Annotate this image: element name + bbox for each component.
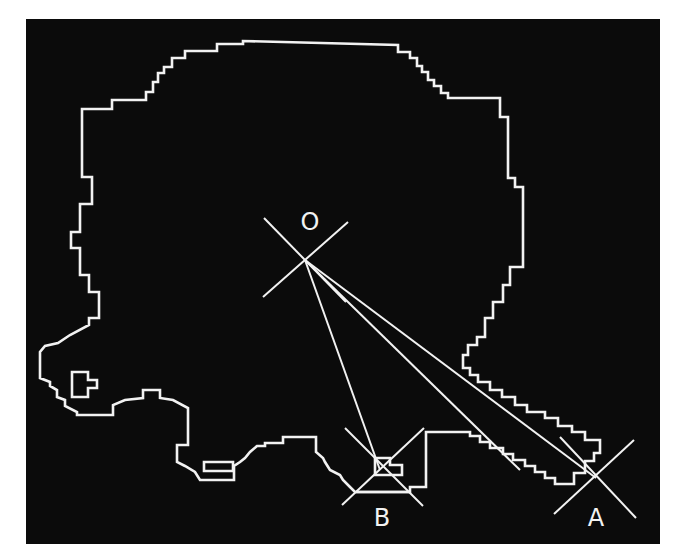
line-o-to-a [305, 260, 596, 478]
point-label-b: B [374, 506, 390, 530]
point-label-o: O [301, 210, 320, 234]
point-label-a: A [588, 506, 604, 530]
contour-diagram [0, 0, 683, 556]
inner-box-left [72, 372, 97, 397]
contour-outline [40, 41, 600, 492]
inner-box-bottom [204, 462, 233, 471]
